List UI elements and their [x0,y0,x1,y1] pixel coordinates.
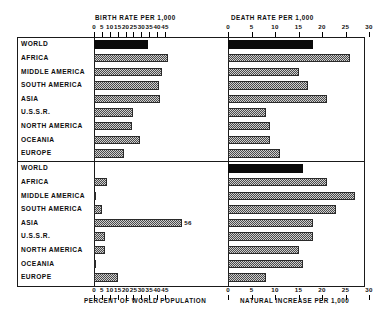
axis-tick-label: 5 [250,23,254,30]
region-label: ASIA [21,95,39,102]
chart-row: U.S.S.R. [17,230,365,244]
region-label: AFRICA [21,54,49,61]
chart-row: ASIA [17,92,365,106]
percent-bar [94,273,118,281]
chart-row: AFRICA [17,52,365,66]
birth-bar [94,122,132,130]
axis-tick-label: 5 [250,286,254,293]
region-label: U.S.S.R. [21,108,50,115]
axis-tick-label: 15 [295,286,302,293]
axis-tick-label: 0 [226,286,230,293]
percent-bar [94,205,102,213]
axis-tick-label: 30 [365,23,372,30]
birth-bar [94,81,159,89]
percent-axis-caption: PERCENT OF WORLD POPULATION [84,297,206,304]
axis-tick [228,295,229,300]
chart-row: NORTH AMERICA [17,244,365,258]
death-rate-axis: 051015202530 [0,24,371,37]
chart-row: SOUTH AMERICA [17,79,365,93]
death-rate-panel-title: DEATH RATE PER 1,000 [231,14,314,21]
region-label: ASIA [21,219,39,226]
region-label: SOUTH AMERICA [21,81,82,88]
natural_increase-bar [228,192,355,200]
percent-bar [94,232,105,240]
region-label: OCEANIA [21,136,55,143]
death-bar [228,68,299,76]
birth-bar [94,54,168,62]
region-label: NORTH AMERICA [21,122,83,129]
chart-row: EUROPE [17,147,365,161]
natural_increase-bar [228,219,313,227]
axis-tick [369,295,370,300]
region-label: SOUTH AMERICA [21,205,82,212]
birth-rate-panel-title: BIRTH RATE PER 1,000 [95,14,176,21]
axis-tick-label: 10 [271,286,278,293]
percent-bar [94,192,96,200]
region-label: WORLD [21,164,48,171]
region-label: MIDDLE AMERICA [21,192,85,199]
region-label: WORLD [21,40,48,47]
percent-bar [94,260,96,268]
natural_increase-bar [228,273,266,281]
natural_increase-bar [228,205,336,213]
percent-bar-value: 56 [184,219,191,226]
chart-row: WORLD [17,38,365,52]
axis-tick-label: 10 [271,23,278,30]
region-label: NORTH AMERICA [21,246,83,253]
natural_increase-bar [228,164,303,172]
death-bar [228,40,313,48]
birth-bar [94,136,140,144]
axis-tick-label: 25 [342,286,349,293]
chart-row: ASIA56 [17,216,365,230]
birth-bar [94,40,148,48]
death-bar [228,122,270,130]
percent-bar [94,219,182,227]
axis-tick-label: 25 [342,23,349,30]
chart-row: MIDDLE AMERICA [17,65,365,79]
axis-tick-label: 20 [318,23,325,30]
death-bar [228,95,327,103]
axis-tick [369,32,370,37]
chart-row: OCEANIA [17,133,365,147]
death-bar [228,149,280,157]
percent-bar [94,246,105,254]
chart-row: AFRICA [17,176,365,190]
birth-bar [94,68,162,76]
chart-row: SOUTH AMERICA [17,203,365,217]
birth-bar [94,149,124,157]
bottom-panel: WORLDAFRICAMIDDLE AMERICASOUTH AMERICAAS… [17,162,365,287]
natural_increase-bar [228,178,327,186]
region-label: U.S.S.R. [21,232,50,239]
natural-increase-axis-caption: NATURAL INCREASE PER 1,000 [240,297,349,304]
region-label: OCEANIA [21,260,55,267]
chart-row: EUROPE [17,271,365,285]
natural_increase-bar [228,232,313,240]
chart-row: MIDDLE AMERICA [17,189,365,203]
percent-bar [94,178,107,186]
natural_increase-bar [228,246,299,254]
region-label: EUROPE [21,149,52,156]
death-bar [228,81,308,89]
region-label: AFRICA [21,178,49,185]
chart-row: NORTH AMERICA [17,120,365,134]
natural_increase-bar [228,260,303,268]
chart-row: OCEANIA [17,257,365,271]
birth-bar [94,108,133,116]
chart-row: WORLD [17,162,365,176]
region-label: EUROPE [21,273,52,280]
axis-tick-label: 20 [318,286,325,293]
birth-bar [94,95,160,103]
death-bar [228,136,270,144]
region-label: MIDDLE AMERICA [21,68,85,75]
top-panel: WORLDAFRICAMIDDLE AMERICASOUTH AMERICAAS… [17,38,365,161]
axis-tick-label: 15 [295,23,302,30]
axis-tick-label: 30 [365,286,372,293]
death-bar [228,54,350,62]
death-bar [228,108,266,116]
chart-row: U.S.S.R. [17,106,365,120]
axis-tick-label: 0 [226,23,230,30]
